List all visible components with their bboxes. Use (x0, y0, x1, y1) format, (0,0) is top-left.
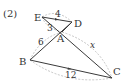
length-ed: 4 (55, 9, 61, 19)
length-ac: x (90, 40, 95, 50)
point-label-d: D (74, 18, 82, 29)
point-label-e: E (34, 12, 41, 23)
problem-number: (2) (3, 8, 17, 19)
length-ea: 3 (47, 23, 53, 33)
point-label-c: C (113, 66, 121, 77)
point-label-b: B (19, 56, 26, 67)
length-ab: 6 (38, 37, 44, 47)
length-bc: 12 (65, 70, 76, 80)
point-label-a: A (56, 33, 65, 44)
geometry-diagram: (2) E D A B C 4 3 6 x 12 (0, 0, 127, 82)
